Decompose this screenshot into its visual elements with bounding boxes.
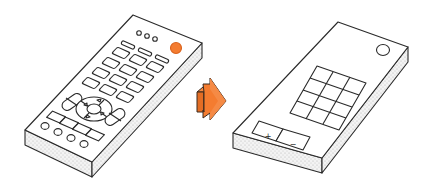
illustration: Remote control simplification <box>0 0 430 195</box>
illustration-canvas: + − <box>0 0 430 195</box>
complex-remote <box>25 15 202 177</box>
volume-minus-label: − <box>290 140 297 149</box>
transformation-arrow-icon <box>197 78 226 120</box>
power-button-icon <box>377 45 390 56</box>
volume-plus-label: + <box>265 132 272 141</box>
simplified-remote: + − <box>233 22 408 173</box>
power-button-icon <box>171 43 182 54</box>
